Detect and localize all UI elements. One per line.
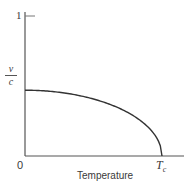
data-curve [25,90,162,156]
tc-main: T [156,158,163,172]
y-label-denominator: c [9,76,13,87]
y-label-numerator: v [9,63,13,74]
origin-label: 0 [17,159,23,171]
x-axis-title: Temperature [77,170,133,181]
y-axis-label: v c [4,64,18,87]
y-tick-label-one: 1 [16,9,22,21]
tc-label: Tc [156,158,166,174]
tc-sub: c [163,165,167,174]
